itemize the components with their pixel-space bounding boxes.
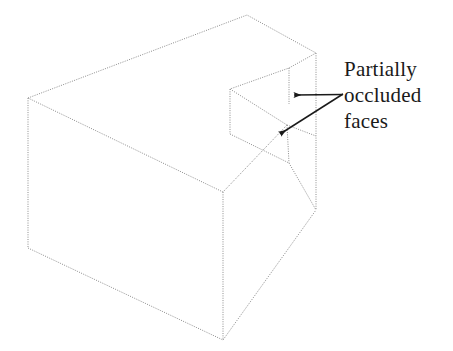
notch-lower-diagonal xyxy=(230,134,289,163)
arrow-to-lower-face xyxy=(280,94,343,134)
annotation-line-1: Partially xyxy=(344,56,453,82)
leader-arrows xyxy=(280,94,343,134)
top-face-edges xyxy=(28,15,316,192)
notch-mid-vertical xyxy=(287,125,289,163)
notch-lower-outer-edge xyxy=(289,163,316,210)
block-wireframe xyxy=(28,15,316,340)
annotation-line-3: faces xyxy=(344,108,453,134)
bottom-right-edge xyxy=(223,210,316,340)
figure-container: Partially occluded faces xyxy=(0,0,453,351)
bottom-left-edge xyxy=(28,248,223,340)
arrow-to-upper-face xyxy=(294,95,343,96)
annotation-label: Partially occluded faces xyxy=(344,56,453,134)
annotation-line-2: occluded xyxy=(344,82,453,108)
occlusion-diagram-svg xyxy=(0,0,453,351)
